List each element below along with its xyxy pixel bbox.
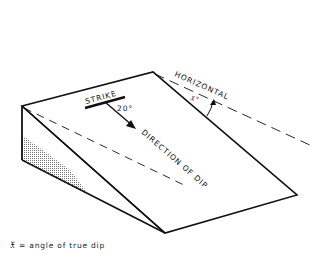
diagram-canvas: STRIKE 20° DIRECTION OF DIP HORIZONTAL 𝔛… <box>0 0 332 260</box>
strike-angle-label: 20° <box>117 104 133 113</box>
horizontal-reference-dashed <box>155 74 312 146</box>
dip-angle-label: 𝔛° <box>189 94 200 104</box>
direction-of-dip-label: DIRECTION OF DIP <box>140 128 210 191</box>
figure-caption: 𝔛 = angle of true dip <box>10 241 105 251</box>
block-diagram: STRIKE 20° DIRECTION OF DIP HORIZONTAL 𝔛… <box>0 0 332 260</box>
dipping-plane <box>22 72 297 233</box>
block-bottom-edge <box>22 160 165 233</box>
